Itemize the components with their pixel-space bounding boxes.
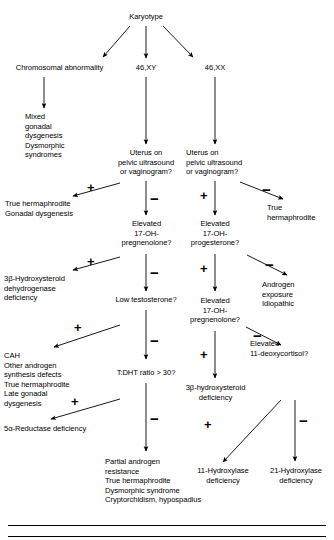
node-3beta-hydroxysteroid-dehydrogenase-deficiency: 3β-Hydroxysteroid dehydrogenase deficien… xyxy=(4,274,109,303)
node-uterus-pelvic-ultrasound-xy: Uterus on pelvic ultrasound or vaginogra… xyxy=(104,148,188,177)
edge-11deoxy-plus xyxy=(223,400,281,462)
node-elevated-17oh-progesterone: Elevated 17-OH- progesterone? xyxy=(176,219,254,248)
sign-plus-17ohpreg-right: + xyxy=(200,348,208,361)
sign-minus-17ohpreg-left: − xyxy=(150,266,159,279)
sign-minus-17ohprog: − xyxy=(265,258,274,271)
node-21-hydroxylase-deficiency: 21-Hydroxylase deficiency xyxy=(258,466,334,485)
edge-uterus-xy-plus xyxy=(73,183,120,196)
sign-minus-11deoxy: − xyxy=(299,414,308,427)
edge-karyotype-to-46xx xyxy=(163,26,193,57)
sign-plus-low-testosterone: + xyxy=(74,321,82,334)
sign-plus-tdht: + xyxy=(71,395,79,408)
sign-minus-uterus-xx: − xyxy=(262,183,271,196)
node-cah-list: CAH Other androgen synthesis defects Tru… xyxy=(4,351,104,409)
bottom-rule-1 xyxy=(8,525,326,526)
node-46xx: 46,XX xyxy=(193,63,237,73)
node-5alpha-reductase-deficiency: 5α-Reductase deficiency xyxy=(4,424,124,434)
node-karyotype: Karyotype xyxy=(112,12,180,22)
node-chromosomal-abnormality: Chromosomal abnormality xyxy=(3,63,116,73)
sign-plus-17ohpreg-left: + xyxy=(87,255,95,268)
edge-karyotype-to-chromosomal xyxy=(103,26,130,57)
node-uterus-pelvic-ultrasound-xx: Uterus on pelvic ultrasound or vaginogra… xyxy=(186,148,282,177)
node-elevated-17oh-pregnenolone-right: Elevated 17-OH- pregnenolone? xyxy=(176,296,254,325)
sign-minus-low-testosterone: − xyxy=(150,334,159,347)
node-elevated-17oh-pregnenolone-left: Elevated 17-OH- pregnenolone? xyxy=(108,219,185,248)
sign-plus-uterus-xy: + xyxy=(87,181,95,194)
edge-low-testosterone-plus xyxy=(54,325,120,347)
node-3beta-hydroxysteroid-deficiency: 3β-hydroxysteroid deficiency xyxy=(173,383,258,402)
sign-minus-uterus-xy: − xyxy=(150,192,159,205)
node-true-hermaphrodite-right: True hermaphrodite xyxy=(267,203,334,222)
sign-minus-tdht: − xyxy=(150,412,159,425)
node-11-hydroxylase-deficiency: 11-Hydroxylase deficiency xyxy=(185,466,261,485)
node-true-hermaphrodite-gonadal-dysgenesis: True hermaphrodite Gonadal dysgenesis xyxy=(5,199,115,218)
sign-plus-uterus-xx: + xyxy=(200,189,208,202)
node-46xy: 46,XY xyxy=(124,63,168,73)
node-tdht-ratio: T:DHT ratio > 30? xyxy=(104,368,188,378)
edge-17ohpreg-left-plus xyxy=(73,257,120,270)
bottom-rule-2 xyxy=(8,536,326,537)
node-androgen-exposure-idiopathic: Androgen exposure Idiopathic xyxy=(262,280,334,309)
sign-minus-17ohpreg-right: − xyxy=(253,329,262,342)
node-elevated-11-deoxycortisol: Elevated 11-deoxycortisol? xyxy=(250,339,334,358)
node-mixed-gonadal-dysgenesis: Mixed gonadal dysgenesis Dysmorphic synd… xyxy=(25,112,110,160)
sign-plus-17ohprog: + xyxy=(200,262,208,275)
flowchart-canvas: Karyotype Chromosomal abnormality 46,XY … xyxy=(0,0,334,540)
sign-plus-11deoxy: + xyxy=(204,418,212,431)
